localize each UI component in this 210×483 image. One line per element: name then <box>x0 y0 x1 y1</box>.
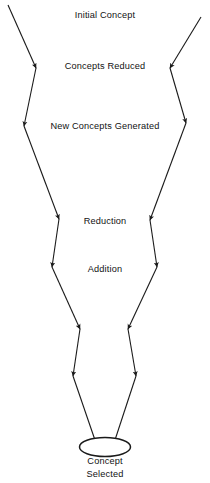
stage-label-concepts-reduced: Concepts Reduced <box>0 60 210 72</box>
right-arrow-segment-2 <box>170 68 186 123</box>
right-arrow-segment-4 <box>150 220 157 267</box>
right-arrow-segment-6 <box>128 329 136 376</box>
right-arrow-segment-7 <box>114 376 136 443</box>
outcome-label-line-1: Concept <box>0 455 210 468</box>
left-arrow-segment-5 <box>52 267 80 329</box>
outcome-label-concept-selected: Concept Selected <box>0 455 210 480</box>
outcome-label-line-2: Selected <box>0 468 210 481</box>
left-arrow-segment-7 <box>73 376 96 443</box>
left-arrow-segment-2 <box>24 68 36 126</box>
diagram-canvas: Initial Concept Concepts Reduced New Con… <box>0 0 210 483</box>
stage-label-reduction: Reduction <box>0 215 210 227</box>
right-arrow-segment-3 <box>150 123 186 220</box>
right-funnel-path-group <box>114 17 201 443</box>
stage-label-addition: Addition <box>0 263 210 275</box>
stage-label-initial-concept: Initial Concept <box>0 9 210 21</box>
left-arrow-segment-6 <box>73 329 80 376</box>
concept-selected-ellipse <box>80 438 131 457</box>
right-arrow-segment-5 <box>128 267 157 329</box>
flow-diagram-svg <box>0 0 210 483</box>
stage-label-new-concepts-generated: New Concepts Generated <box>0 120 210 132</box>
left-arrow-segment-3 <box>24 126 59 219</box>
